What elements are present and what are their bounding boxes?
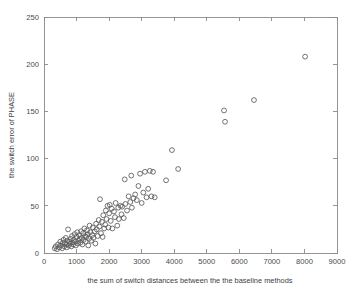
y-tick-label: 200 xyxy=(26,60,39,69)
scatter-plot-figure: 0100020003000400050006000700080009000050… xyxy=(0,0,363,293)
y-tick-label: 250 xyxy=(26,13,39,22)
plot-canvas: 0100020003000400050006000700080009000050… xyxy=(0,0,363,293)
x-tick-label: 7000 xyxy=(263,257,280,266)
y-tick-label: 0 xyxy=(35,249,39,258)
y-tick-label: 100 xyxy=(26,154,39,163)
x-tick-label: 8000 xyxy=(296,257,313,266)
x-tick-label: 1000 xyxy=(68,257,85,266)
x-tick-label: 5000 xyxy=(198,257,215,266)
x-tick-label: 9000 xyxy=(329,257,346,266)
x-tick-label: 3000 xyxy=(133,257,150,266)
y-tick-label: 50 xyxy=(31,202,39,211)
x-axis-label: the sum of switch distances between the … xyxy=(87,276,292,285)
y-axis-label: the switch error of PHASE xyxy=(7,92,16,178)
x-tick-label: 4000 xyxy=(166,257,183,266)
x-tick-label: 0 xyxy=(42,257,46,266)
y-tick-label: 150 xyxy=(26,107,39,116)
x-tick-label: 2000 xyxy=(101,257,118,266)
x-tick-label: 6000 xyxy=(231,257,248,266)
